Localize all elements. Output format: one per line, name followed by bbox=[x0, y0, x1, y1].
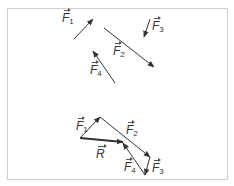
vector-arrow-icon: F bbox=[113, 45, 120, 57]
separate-label-f2: F2 bbox=[113, 45, 125, 59]
polygon-arrow-f3 bbox=[145, 157, 150, 175]
separate-label-f4: F4 bbox=[90, 64, 102, 78]
vector-arrow-icon: F bbox=[126, 124, 133, 136]
vector-arrow-icon: F bbox=[152, 20, 159, 32]
separate-arrow-f1 bbox=[74, 19, 93, 39]
polygon-label-f1: F1 bbox=[76, 120, 88, 134]
force-arrows bbox=[74, 19, 154, 175]
separate-label-f3: F3 bbox=[152, 20, 164, 34]
vector-arrow-icon: F bbox=[124, 161, 131, 173]
separate-arrow-f3 bbox=[144, 19, 150, 37]
resultant-arrow-r bbox=[80, 138, 123, 142]
polygon-arrow-f2 bbox=[100, 117, 150, 157]
separate-label-f1: F1 bbox=[62, 12, 74, 26]
polygon-label-f3: F3 bbox=[152, 162, 164, 176]
vector-arrow-icon: F bbox=[90, 64, 97, 76]
vector-arrow-icon: F bbox=[62, 12, 69, 24]
vector-arrow-icon: R bbox=[96, 148, 105, 160]
resultant-label-r: R bbox=[96, 148, 105, 160]
vector-diagram bbox=[0, 0, 234, 186]
polygon-label-f2: F2 bbox=[126, 124, 138, 138]
vector-arrow-icon: F bbox=[152, 162, 159, 174]
vector-arrow-icon: F bbox=[76, 120, 83, 132]
separate-arrow-f2 bbox=[104, 28, 154, 67]
polygon-label-f4: F4 bbox=[124, 161, 136, 175]
